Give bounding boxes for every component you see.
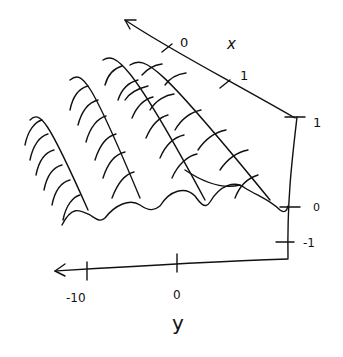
y-axis-label: y (172, 311, 184, 335)
x-tick-1 (220, 80, 230, 88)
y-axis (55, 254, 288, 280)
y-tick-label-0: 0 (173, 288, 181, 302)
z-tick-label-neg1: -1 (303, 236, 315, 250)
x-tick-label-1: 1 (240, 68, 248, 83)
x-axis-label: x (226, 35, 236, 53)
x-tick-label-0: 0 (180, 35, 188, 50)
wave-surface (25, 58, 288, 225)
surface-sketch: 0 x 1 1 0 -1 -10 0 y (0, 0, 343, 357)
y-tick-label-neg10: -10 (66, 291, 86, 305)
z-axis (276, 117, 305, 258)
z-tick-label-0: 0 (313, 201, 320, 214)
z-tick-label-1: 1 (313, 115, 321, 130)
